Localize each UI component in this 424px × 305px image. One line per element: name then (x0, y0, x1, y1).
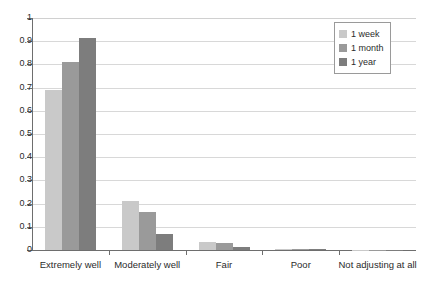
y-tick-label: 0.4 (6, 152, 32, 161)
bar (275, 249, 292, 250)
y-tick-label: 0.6 (6, 106, 32, 115)
bar (292, 249, 309, 250)
y-tick-label: 0.5 (6, 129, 32, 138)
bar (199, 242, 216, 250)
y-tick-label: 0.2 (6, 199, 32, 208)
y-tick-label: 0 (6, 245, 32, 254)
x-tick-mark (339, 250, 340, 255)
y-tick-label: 0.3 (6, 175, 32, 184)
bar-group (199, 18, 250, 250)
y-tick-label: 0.9 (6, 36, 32, 45)
bar-group (122, 18, 173, 250)
x-axis-label: Not adjusting at all (336, 259, 420, 272)
bar (139, 212, 156, 250)
x-tick-mark (109, 250, 110, 255)
x-tick-mark (186, 250, 187, 255)
bar-group (45, 18, 96, 250)
y-tick-label: 0.1 (6, 222, 32, 231)
bar (216, 243, 233, 250)
y-tick-label: 1 (6, 13, 32, 22)
x-tick-mark (262, 250, 263, 255)
legend-item: 1 year (339, 55, 384, 69)
bar (309, 249, 326, 250)
x-axis-label: Fair (182, 259, 266, 272)
legend-item-label: 1 year (351, 58, 376, 67)
legend: 1 week1 month1 year (334, 22, 391, 74)
bar (62, 62, 79, 250)
legend-item-label: 1 month (351, 44, 384, 53)
legend-item-label: 1 week (351, 30, 380, 39)
legend-item: 1 week (339, 27, 384, 41)
x-axis-line (32, 250, 416, 251)
x-axis-label: Moderately well (105, 259, 189, 272)
bar (45, 90, 62, 250)
legend-swatch-icon (339, 30, 347, 38)
bar (233, 247, 250, 250)
x-axis-label: Extremely well (28, 259, 112, 272)
bar-chart: 10.90.80.70.60.50.40.30.20.10 Extremely … (0, 0, 424, 305)
y-tick-label: 0.7 (6, 83, 32, 92)
y-tick-label: 0.8 (6, 59, 32, 68)
legend-item: 1 month (339, 41, 384, 55)
bar-group (275, 18, 326, 250)
legend-swatch-icon (339, 44, 347, 52)
bar (79, 38, 96, 250)
bar (156, 234, 173, 250)
legend-swatch-icon (339, 58, 347, 66)
bar (122, 201, 139, 250)
x-axis-label: Poor (259, 259, 343, 272)
